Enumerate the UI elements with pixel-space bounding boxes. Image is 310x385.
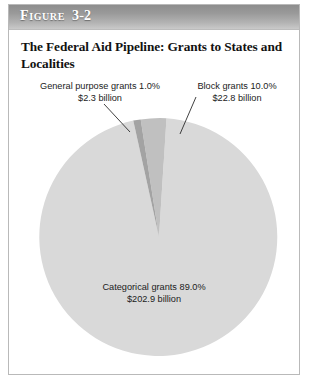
callout-general-line1: General purpose grants 1.0% <box>40 81 160 91</box>
callout-block-line1: Block grants 10.0% <box>197 81 276 91</box>
figure-frame: Figure3-2 The Federal Aid Pipeline: Gran… <box>8 4 300 375</box>
pie-chart-graphic <box>9 5 299 375</box>
callout-categorical-line1: Categorical grants 89.0% <box>102 282 205 292</box>
callout-categorical-grants: Categorical grants 89.0% $202.9 billion <box>69 282 239 305</box>
callout-general-line2: $2.3 billion <box>25 93 175 105</box>
callout-categorical-line2: $202.9 billion <box>69 294 239 306</box>
callout-block-line2: $22.8 billion <box>181 93 293 105</box>
pie-chart: General purpose grants 1.0% $2.3 billion… <box>9 5 299 375</box>
callout-general-purpose-grants: General purpose grants 1.0% $2.3 billion <box>25 81 175 104</box>
callout-block-grants: Block grants 10.0% $22.8 billion <box>181 81 293 104</box>
